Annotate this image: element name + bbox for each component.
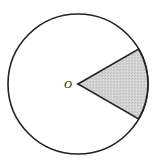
diagram-canvas [0,0,161,162]
center-point [77,83,79,85]
center-label-o: O [64,79,72,90]
circle-sector-diagram: O [0,0,161,162]
